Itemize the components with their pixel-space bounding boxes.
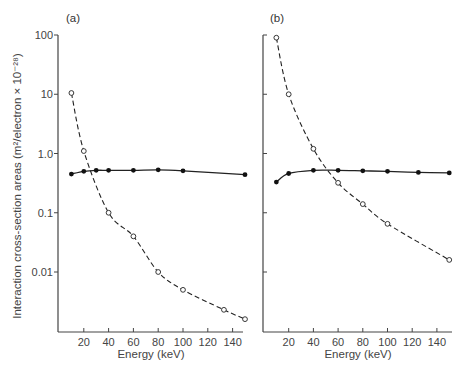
x-tick-label: 120 xyxy=(403,336,421,348)
open-circle-marker xyxy=(286,92,291,97)
open-circle-marker xyxy=(385,221,390,226)
dashed-curve xyxy=(276,38,449,260)
open-circle-marker xyxy=(274,35,279,40)
chart-figure: (a)100101.00.10.0120406080100120140Energ… xyxy=(0,0,468,380)
filled-circle-marker xyxy=(181,168,186,173)
x-tick-label: 80 xyxy=(152,336,164,348)
y-tick-label: 0.01 xyxy=(32,266,53,278)
open-circle-marker xyxy=(360,202,365,207)
open-circle-marker xyxy=(336,180,341,185)
y-tick-label: 0.1 xyxy=(38,207,53,219)
filled-circle-marker xyxy=(156,167,161,172)
filled-circle-marker xyxy=(243,172,248,177)
filled-circle-marker xyxy=(447,171,452,176)
x-tick-label: 20 xyxy=(283,336,295,348)
y-tick-label: 100 xyxy=(35,29,53,41)
filled-circle-marker xyxy=(106,168,111,173)
filled-circle-marker xyxy=(274,180,279,185)
x-axis-title: Energy (keV) xyxy=(117,348,184,360)
x-tick-label: 120 xyxy=(199,336,217,348)
open-circle-marker xyxy=(222,307,227,312)
filled-circle-marker xyxy=(81,169,86,174)
x-tick-label: 40 xyxy=(102,336,114,348)
panel-a: (a)100101.00.10.0120406080100120140Energ… xyxy=(32,12,248,360)
x-tick-label: 100 xyxy=(378,336,396,348)
open-circle-marker xyxy=(81,149,86,154)
y-tick-label: 10 xyxy=(41,88,53,100)
open-circle-marker xyxy=(131,234,136,239)
x-axis-title: Energy (keV) xyxy=(324,348,391,360)
filled-circle-marker xyxy=(336,168,341,173)
filled-circle-marker xyxy=(131,168,136,173)
panel-label: (a) xyxy=(66,12,80,24)
panel-label: (b) xyxy=(270,12,284,24)
x-tick-label: 140 xyxy=(428,336,446,348)
filled-circle-marker xyxy=(311,168,316,173)
filled-circle-marker xyxy=(385,169,390,174)
x-tick-label: 60 xyxy=(332,336,344,348)
open-circle-marker xyxy=(447,258,452,263)
x-tick-label: 140 xyxy=(223,336,241,348)
open-circle-marker xyxy=(181,287,186,292)
panel-b: (b)20406080100120140Energy (keV) xyxy=(263,12,452,360)
y-axis-title: Interaction cross-section areas (m²/elec… xyxy=(11,53,23,319)
y-tick-label: 1.0 xyxy=(38,148,53,160)
filled-circle-marker xyxy=(286,171,291,176)
open-circle-marker xyxy=(106,210,111,215)
filled-circle-marker xyxy=(94,168,99,173)
filled-circle-marker xyxy=(360,168,365,173)
x-tick-label: 80 xyxy=(357,336,369,348)
x-tick-label: 60 xyxy=(127,336,139,348)
x-tick-label: 100 xyxy=(174,336,192,348)
x-tick-label: 40 xyxy=(307,336,319,348)
open-circle-marker xyxy=(243,317,248,322)
open-circle-marker xyxy=(156,270,161,275)
x-tick-label: 20 xyxy=(78,336,90,348)
open-circle-marker xyxy=(69,91,74,96)
filled-circle-marker xyxy=(416,170,421,175)
filled-circle-marker xyxy=(69,172,74,177)
dashed-curve xyxy=(71,93,245,319)
open-circle-marker xyxy=(311,146,316,151)
